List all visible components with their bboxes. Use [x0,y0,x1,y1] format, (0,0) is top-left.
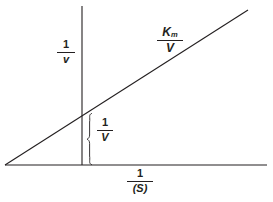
x-axis-label-denominator: (S) [127,183,153,195]
y-axis-label-denominator: v [57,54,75,66]
double-reciprocal-line [5,10,248,165]
lineweaver-burk-figure: 1 v Km V 1 V 1 (S) [0,0,273,202]
slope-label-numerator-base: K [162,25,171,39]
slope-label-denominator: V [157,42,183,55]
y-axis-label: 1 v [57,39,75,65]
x-axis-label-numerator: 1 [127,168,153,180]
y-intercept-label-numerator: 1 [97,117,113,129]
y-intercept-label: 1 V [97,117,113,143]
slope-label: Km V [157,26,183,55]
slope-label-numerator-subscript: m [171,30,178,39]
y-axis-label-numerator: 1 [57,39,75,51]
x-axis-label: 1 (S) [127,168,153,194]
y-intercept-label-denominator: V [97,132,113,144]
slope-label-numerator: Km [157,26,183,39]
intercept-brace-icon [87,114,91,165]
